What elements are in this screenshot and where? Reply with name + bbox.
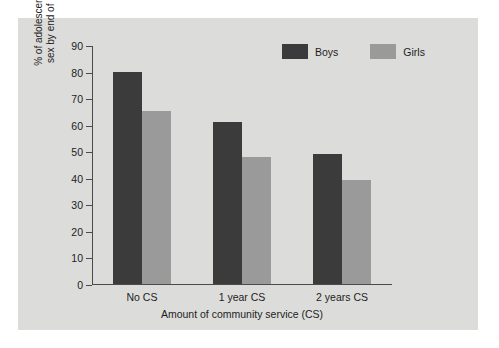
y-axis-line <box>92 46 93 285</box>
y-axis-title: % of adolescents initiating sex by end o… <box>33 0 57 88</box>
y-tick-label: 30 <box>71 200 83 211</box>
figure: Boys Girls % of adolescents initiating s… <box>0 0 499 348</box>
bar-boys-no-cs <box>113 72 142 284</box>
bar-girls-2-years-cs <box>342 180 371 284</box>
y-tick-label: 70 <box>71 94 83 105</box>
bar-girls-no-cs <box>142 111 171 284</box>
x-tick-label-2: 2 years CS <box>316 291 368 303</box>
y-tick-mark <box>86 258 92 259</box>
y-tick-mark <box>86 73 92 74</box>
bar-boys-2-years-cs <box>313 154 342 284</box>
x-tick-label-0: No CS <box>127 291 158 303</box>
y-tick-mark <box>86 179 92 180</box>
x-axis-title: Amount of community service (CS) <box>92 308 392 320</box>
bar-girls-1-year-cs <box>242 157 271 284</box>
y-axis-title-line1: % of adolescents initiating <box>33 0 45 88</box>
x-axis-line <box>92 284 392 285</box>
y-tick-label: 10 <box>71 253 83 264</box>
y-tick-mark <box>86 152 92 153</box>
y-tick-label: 40 <box>71 174 83 185</box>
y-tick-mark <box>86 126 92 127</box>
y-tick-label: 0 <box>77 280 83 291</box>
y-tick-label: 50 <box>71 147 83 158</box>
y-tick-label: 60 <box>71 120 83 131</box>
bar-boys-1-year-cs <box>213 122 242 284</box>
y-tick-label: 80 <box>71 67 83 78</box>
legend-label-girls: Girls <box>403 46 425 58</box>
y-tick-mark <box>86 285 92 286</box>
y-tick-mark <box>86 205 92 206</box>
y-tick-mark <box>86 46 92 47</box>
y-tick-mark <box>86 99 92 100</box>
y-tick-label: 90 <box>71 41 83 52</box>
y-axis-title-line2: sex by end of 10th grade <box>45 0 57 88</box>
plot-area: 0102030405060708090 No CS1 year CS2 year… <box>92 46 392 285</box>
y-tick-mark <box>86 232 92 233</box>
y-tick-label: 20 <box>71 227 83 238</box>
x-tick-label-1: 1 year CS <box>219 291 266 303</box>
